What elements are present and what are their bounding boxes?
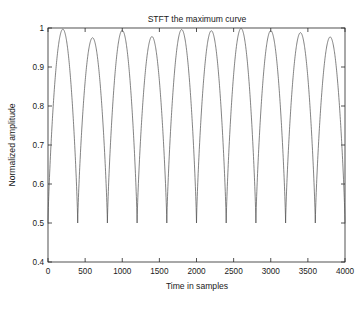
y-tick-label: 1 [39,24,44,33]
y-tick-label: 0.7 [33,141,45,150]
y-tick-label: 0.8 [33,102,45,111]
x-tick-label: 1500 [150,267,169,276]
x-tick-label: 2500 [225,267,244,276]
data-series-line [48,28,345,223]
y-tick-label: 0.4 [33,258,45,267]
x-tick-label: 3000 [262,267,281,276]
chart-plot: STFT the maximum curve 0.40.50.60.70.80.… [0,0,360,311]
plot-box-border [48,28,345,262]
y-tick-label: 0.9 [33,63,45,72]
x-tick-label: 2000 [187,267,206,276]
y-axis-ticks: 0.40.50.60.70.80.91 [33,24,345,267]
y-tick-label: 0.5 [33,219,45,228]
y-axis-label: Normalized amplitude [7,103,17,186]
figure-canvas: STFT the maximum curve 0.40.50.60.70.80.… [0,0,360,311]
x-axis-ticks: 05001000150020002500300035004000 [46,28,355,276]
x-tick-label: 4000 [336,267,355,276]
x-tick-label: 0 [46,267,51,276]
x-tick-label: 500 [78,267,92,276]
y-tick-label: 0.6 [33,180,45,189]
x-axis-label: Time in samples [166,281,228,291]
chart-title: STFT the maximum curve [148,14,247,24]
x-tick-label: 1000 [113,267,132,276]
x-tick-label: 3500 [299,267,318,276]
